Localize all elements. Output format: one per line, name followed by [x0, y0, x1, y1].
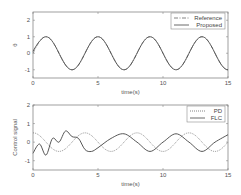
- y-tick-label: 2: [27, 102, 31, 108]
- x-tick-label: 10: [160, 80, 167, 86]
- x-axis-label: time(s): [121, 181, 139, 187]
- legend-entry-reference: Reference: [194, 15, 222, 21]
- x-tick-label: 0: [31, 80, 35, 86]
- y-tick-label: 2: [27, 17, 31, 23]
- bottom-plot: 051015-1012time(s)Control signalPDFLC: [12, 102, 232, 187]
- x-tick-label: 15: [225, 172, 232, 178]
- y-tick-label: 1: [27, 121, 31, 127]
- top-plot: 051015-1012time(s)θReferenceProposed: [12, 12, 232, 95]
- x-tick-label: 5: [96, 172, 100, 178]
- legend-entry-flc: FLC: [211, 115, 223, 121]
- y-tick-label: 0: [27, 50, 31, 56]
- y-tick-label: -1: [25, 67, 31, 73]
- y-axis-label: Control signal: [12, 119, 18, 156]
- y-tick-label: -1: [25, 158, 31, 164]
- x-axis-label: time(s): [121, 89, 139, 95]
- y-tick-label: 0: [27, 139, 31, 145]
- x-tick-label: 10: [160, 172, 167, 178]
- y-axis-label: θ: [12, 43, 18, 47]
- x-tick-label: 15: [225, 80, 232, 86]
- x-tick-label: 0: [31, 172, 35, 178]
- y-tick-label: 1: [27, 34, 31, 40]
- legend-entry-proposed: Proposed: [196, 22, 222, 28]
- x-tick-label: 5: [96, 80, 100, 86]
- figure: 051015-1012time(s)θReferenceProposed 051…: [0, 0, 241, 195]
- legend-entry-pd: PD: [214, 108, 223, 114]
